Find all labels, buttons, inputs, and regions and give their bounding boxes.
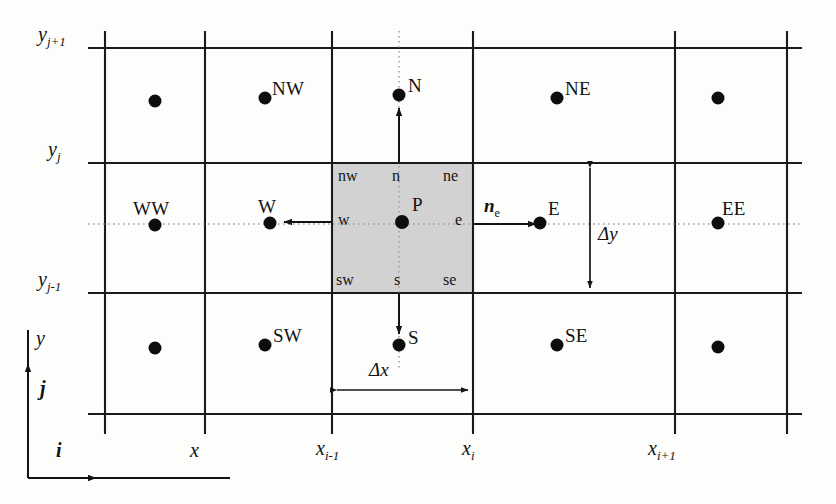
node-dot-plain-se	[712, 341, 725, 354]
face-label-e: e	[455, 212, 462, 228]
axis-label-i: i	[56, 440, 62, 460]
x-tick-i-plus-1-base: x	[648, 437, 657, 459]
node-label-N: N	[408, 76, 422, 95]
face-label-w: w	[338, 212, 350, 228]
node-dot-W	[264, 217, 277, 230]
node-dot-SE	[551, 339, 564, 352]
y-tick-j-base: y	[48, 138, 57, 160]
y-tick-j-plus-1: yj+1	[38, 24, 66, 48]
x-tick-i-base: x	[462, 437, 471, 459]
face-label-nw: nw	[338, 168, 358, 184]
x-tick-i-minus-1: xi-1	[316, 438, 339, 462]
node-dot-NE	[551, 92, 564, 105]
face-label-sw: sw	[336, 272, 354, 288]
node-label-SE: SE	[565, 326, 588, 345]
face-label-se: se	[443, 272, 456, 288]
y-tick-j-sub: j	[57, 149, 61, 164]
normal-vector-ne-label: ne	[484, 196, 500, 219]
node-label-SW: SW	[273, 326, 302, 345]
x-tick-i-sub: i	[471, 448, 475, 463]
axis-label-j: j	[40, 378, 46, 398]
y-tick-j: yj	[48, 139, 61, 163]
x-tick-i-plus-1-sub: i+1	[657, 448, 676, 463]
normal-vector-ne-sub: e	[495, 206, 500, 220]
node-label-NW: NW	[272, 79, 304, 98]
node-label-WW: WW	[133, 199, 169, 218]
node-dot-WW	[149, 219, 162, 232]
node-label-E: E	[548, 199, 560, 218]
x-tick-i-plus-1: xi+1	[648, 438, 676, 462]
y-tick-j-plus-1-sub: j+1	[47, 34, 66, 49]
finite-volume-grid-figure: P N S W E NW NE SW SE WW EE nw n ne w e …	[0, 0, 836, 504]
node-label-NE: NE	[565, 79, 591, 98]
y-tick-j-minus-1: yj-1	[38, 269, 61, 293]
face-label-ne: ne	[443, 168, 458, 184]
dimension-label-delta-y: Δy	[598, 224, 618, 243]
normal-vector-ne-base: n	[484, 195, 495, 216]
node-dot-plain-ne	[712, 92, 725, 105]
node-dot-N	[393, 89, 406, 102]
x-tick-x: x	[190, 440, 199, 464]
x-tick-i-minus-1-base: x	[316, 437, 325, 459]
dimension-label-delta-x: Δx	[369, 360, 389, 379]
x-tick-i-minus-1-sub: i-1	[325, 448, 339, 463]
axis-label-y: y	[36, 328, 45, 348]
x-tick-i: xi	[462, 438, 475, 462]
node-dot-P	[395, 215, 409, 229]
node-dot-E	[534, 217, 547, 230]
y-tick-j-minus-1-sub: j-1	[47, 279, 61, 294]
node-dot-NW	[259, 92, 272, 105]
node-dot-SW	[259, 339, 272, 352]
node-label-W: W	[258, 197, 276, 216]
node-dot-plain-sw	[149, 342, 162, 355]
node-dot-plain-nw	[149, 95, 162, 108]
node-label-EE: EE	[722, 199, 746, 218]
node-label-P: P	[412, 195, 423, 214]
node-dot-S	[393, 339, 406, 352]
y-tick-j-plus-1-base: y	[38, 23, 47, 45]
y-tick-j-minus-1-base: y	[38, 268, 47, 290]
x-tick-x-base: x	[190, 439, 199, 461]
node-label-S: S	[408, 328, 419, 347]
face-label-s: s	[394, 272, 400, 288]
face-label-n: n	[392, 168, 400, 184]
